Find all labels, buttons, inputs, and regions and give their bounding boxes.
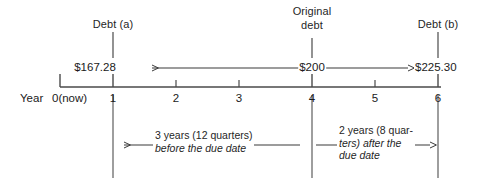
marker-label-original-debt: Original debt bbox=[293, 5, 332, 32]
axis-tick-6: 6 bbox=[435, 92, 441, 105]
annotation-after-due-date-line2: ters) after the bbox=[339, 137, 413, 150]
annotation-before-due-date-line2-text: before the due date bbox=[155, 142, 246, 154]
annotation-after-due-date-line3-text: due date bbox=[339, 149, 380, 161]
axis-tick-3: 3 bbox=[236, 92, 242, 105]
axis-tick-1: 1 bbox=[110, 92, 116, 105]
annotation-before-due-date-line2: before the due date bbox=[155, 142, 252, 155]
axis-tick-4: 4 bbox=[309, 92, 315, 105]
axis-origin-label: 0(now) bbox=[52, 92, 87, 105]
annotation-before-due-date-line1: 3 years (12 quarters) bbox=[155, 129, 252, 142]
axis-tick-5: 5 bbox=[372, 92, 378, 105]
annotation-after-due-date-line2-text: ters) after the bbox=[339, 137, 401, 149]
axis-ticks bbox=[60, 74, 438, 87]
amount-debt-b: $225.30 bbox=[414, 61, 458, 74]
marker-label-debt-b: Debt (b) bbox=[418, 18, 459, 31]
annotation-after-due-date-line1: 2 years (8 quar- bbox=[339, 124, 413, 137]
callout-leader-lines bbox=[113, 32, 438, 58]
annotation-after-due-date: 2 years (8 quar- ters) after the due dat… bbox=[337, 124, 415, 162]
annotation-before-due-date: 3 years (12 quarters) before the due dat… bbox=[153, 129, 254, 154]
axis-label-year: Year bbox=[20, 92, 43, 105]
marker-label-original-debt-line1: Original bbox=[293, 5, 332, 17]
axis-tick-2: 2 bbox=[173, 92, 179, 105]
diagram-canvas: Debt (a) Original debt Debt (b) $167.28 … bbox=[0, 0, 492, 190]
annotation-after-due-date-line3: due date bbox=[339, 149, 413, 162]
amount-original-debt: $200 bbox=[298, 61, 326, 74]
marker-label-debt-a: Debt (a) bbox=[93, 18, 134, 31]
amount-debt-a: $167.28 bbox=[73, 61, 117, 74]
marker-label-original-debt-line2: debt bbox=[301, 19, 323, 31]
